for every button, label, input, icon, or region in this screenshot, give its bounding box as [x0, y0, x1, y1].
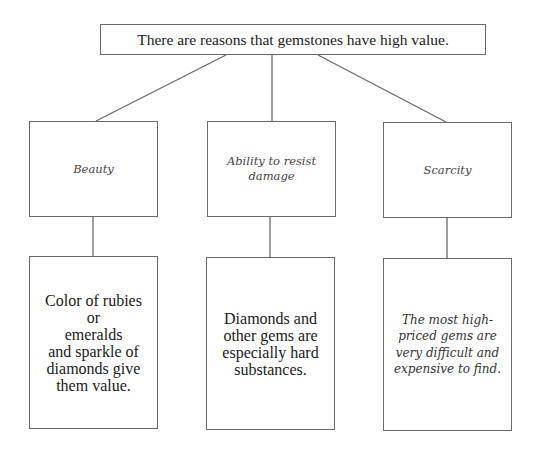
root-node: There are reasons that gemstones have hi…: [100, 24, 486, 55]
category-label: Ability to resist damage: [227, 154, 316, 184]
detail-text: Color of rubies or emeralds and sparkle …: [38, 292, 149, 394]
category-label: Beauty: [73, 162, 114, 177]
detail-text: Diamonds and other gems are especially h…: [222, 310, 318, 378]
detail-node-ability: Diamonds and other gems are especially h…: [206, 257, 335, 430]
connector-root-to-beauty: [96, 55, 226, 121]
category-node-ability: Ability to resist damage: [207, 121, 336, 217]
category-node-scarcity: Scarcity: [383, 122, 512, 218]
category-label: Scarcity: [424, 163, 472, 178]
detail-node-scarcity: The most high- priced gems are very diff…: [383, 258, 512, 431]
detail-node-beauty: Color of rubies or emeralds and sparkle …: [29, 256, 158, 429]
connector-root-to-scarcity: [318, 55, 446, 122]
category-node-beauty: Beauty: [29, 121, 158, 217]
detail-text: The most high- priced gems are very diff…: [394, 312, 501, 378]
root-node-label: There are reasons that gemstones have hi…: [137, 31, 449, 49]
